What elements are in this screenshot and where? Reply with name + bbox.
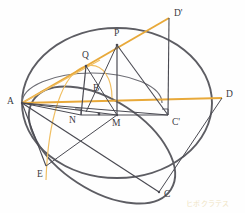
segment-A-Cprime [22,103,168,115]
vertex-dot-Q [85,65,88,68]
segment-A-E [22,103,46,166]
point-label-Q: Q [82,51,89,61]
point-label-Cprime: C' [172,118,180,128]
segment-P-Cprime [117,45,168,115]
point-label-D: D [226,90,233,100]
point-label-A: A [7,97,14,107]
watermark-text: ヒポクラテス [186,198,230,208]
point-label-N: N [69,116,76,126]
vertex-dot-A [21,102,23,104]
point-label-P: P [114,29,119,39]
point-label-C: C [164,190,170,200]
point-label-Dprime: D' [174,9,183,19]
geometry-canvas [0,0,245,213]
point-label-M: M [112,119,120,129]
vertex-dot-P [116,44,119,47]
segment-A-D [22,98,222,103]
point-label-B: B [93,84,99,94]
segment-A-M [22,103,117,115]
geometry-figure: A B C C' D D' E M N P Q ヒポクラテス [0,0,245,213]
center-dot [98,113,101,116]
vertex-dot-M [116,114,118,116]
segment-Dprime-Cprime [168,18,169,115]
vertex-dot-C [158,191,160,193]
point-label-E: E [37,170,43,180]
